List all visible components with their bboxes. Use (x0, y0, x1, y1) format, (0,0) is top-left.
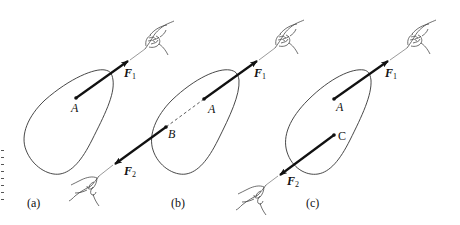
hand-icon (275, 20, 304, 54)
point-label-c: C (338, 130, 346, 142)
panel-c (236, 20, 436, 215)
force-label-f2: F2 (287, 175, 299, 189)
hand-icon (69, 176, 99, 206)
rigid-body-outline (152, 70, 240, 175)
hand-icon (145, 21, 174, 55)
dashed-line-of-action (166, 99, 204, 127)
rigid-body-outline (24, 70, 113, 175)
panel-label-a: (a) (27, 197, 40, 209)
force-arrow-f2 (115, 127, 166, 164)
point-label-a: A (71, 102, 78, 114)
force-label-f1: F1 (254, 67, 266, 81)
panel-label-c: (c) (306, 197, 319, 209)
rope (390, 48, 407, 60)
diagram-svg (0, 0, 460, 225)
force-label-f1: F1 (385, 67, 397, 81)
point-a-dot (202, 97, 206, 101)
point-c-dot (332, 133, 336, 137)
rope (259, 48, 275, 60)
force-label-f2: F2 (124, 165, 136, 179)
panel-label-b: (b) (171, 197, 185, 209)
rope (99, 165, 113, 176)
force-arrow-f1 (334, 61, 388, 99)
force-arrow-f1 (204, 61, 257, 99)
panel-a (24, 21, 174, 174)
point-a-dot (74, 96, 78, 100)
force-arrow-f1 (76, 61, 128, 98)
point-label-a: A (208, 103, 215, 115)
point-label-b: B (168, 128, 175, 140)
hand-icon (407, 20, 436, 54)
rope (266, 176, 278, 185)
force-transmissibility-figure: A F1 (a) A B F1 F2 (b) A C F1 F2 (c) (0, 0, 460, 225)
rigid-body-outline (286, 70, 372, 175)
point-label-a: A (336, 101, 343, 113)
force-label-f1: F1 (124, 67, 136, 81)
panel-b (69, 20, 304, 206)
rope (130, 49, 145, 60)
hand-icon (236, 185, 266, 215)
